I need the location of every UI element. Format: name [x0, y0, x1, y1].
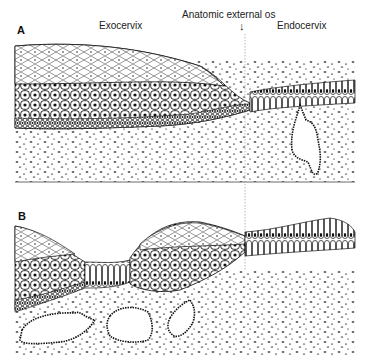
- panel-a: [15, 44, 355, 182]
- panel-b: [15, 218, 355, 355]
- cervix-histology-diagram: [0, 0, 367, 357]
